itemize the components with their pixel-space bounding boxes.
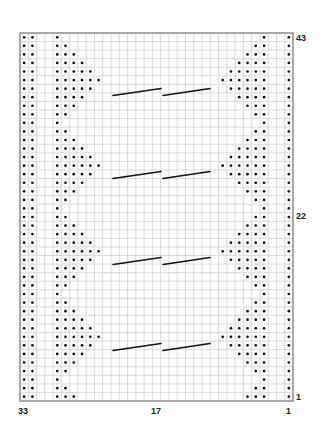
purl-dot	[64, 395, 67, 398]
purl-dot	[263, 233, 266, 236]
purl-dot	[254, 199, 257, 202]
purl-dot	[288, 79, 291, 82]
purl-dot	[72, 139, 75, 142]
purl-dot	[23, 258, 26, 261]
purl-dot	[230, 70, 233, 73]
purl-dot	[221, 164, 224, 167]
purl-dot	[56, 293, 59, 296]
purl-dot	[263, 353, 266, 356]
purl-dot	[230, 164, 233, 167]
purl-dot	[81, 327, 84, 330]
purl-dot	[254, 96, 257, 99]
purl-dot	[288, 387, 291, 390]
purl-dot	[56, 241, 59, 244]
purl-dot	[56, 190, 59, 193]
purl-dot	[23, 70, 26, 73]
purl-dot	[23, 276, 26, 279]
purl-dot	[230, 156, 233, 159]
purl-dot	[56, 284, 59, 287]
purl-dot	[288, 122, 291, 125]
purl-dot	[230, 87, 233, 90]
purl-dot	[23, 387, 26, 390]
purl-dot	[263, 250, 266, 253]
purl-dot	[31, 387, 34, 390]
purl-dot	[64, 301, 67, 304]
purl-dot	[56, 122, 59, 125]
purl-dot	[56, 267, 59, 270]
purl-dot	[56, 224, 59, 227]
purl-dot	[254, 164, 257, 167]
purl-dot	[89, 164, 92, 167]
purl-dot	[246, 250, 249, 253]
purl-dot	[263, 301, 266, 304]
col-label-33: 33	[18, 406, 28, 416]
purl-dot	[72, 164, 75, 167]
purl-dot	[288, 370, 291, 373]
purl-dot	[230, 173, 233, 176]
purl-dot	[23, 216, 26, 219]
purl-dot	[31, 293, 34, 296]
purl-dot	[56, 130, 59, 133]
cable-stroke	[163, 258, 210, 265]
purl-dot	[254, 395, 257, 398]
purl-dot	[64, 335, 67, 338]
purl-dot	[31, 284, 34, 287]
purl-dot	[230, 250, 233, 253]
purl-dot	[230, 327, 233, 330]
purl-dot	[64, 258, 67, 261]
purl-dot	[72, 327, 75, 330]
purl-dot	[263, 267, 266, 270]
purl-dot	[64, 87, 67, 90]
purl-dot	[31, 318, 34, 321]
purl-dot	[31, 395, 34, 398]
purl-dot	[64, 181, 67, 184]
purl-dot	[23, 130, 26, 133]
purl-dot	[230, 241, 233, 244]
purl-dot	[56, 207, 59, 210]
purl-dot	[31, 353, 34, 356]
purl-dot	[288, 130, 291, 133]
purl-dot	[23, 344, 26, 347]
purl-dot	[64, 216, 67, 219]
purl-dot	[64, 130, 67, 133]
purl-dot	[254, 335, 257, 338]
purl-dot	[246, 156, 249, 159]
purl-dot	[72, 147, 75, 150]
purl-dot	[263, 113, 266, 116]
cable-stroke	[113, 172, 161, 179]
purl-dot	[288, 241, 291, 244]
purl-dot	[288, 139, 291, 142]
purl-dot	[246, 233, 249, 236]
purl-dot	[81, 79, 84, 82]
purl-dot	[263, 53, 266, 56]
purl-dot	[263, 370, 266, 373]
purl-dot	[288, 293, 291, 296]
purl-dot	[56, 378, 59, 381]
purl-dot	[238, 335, 241, 338]
purl-dot	[97, 79, 100, 82]
purl-dot	[56, 318, 59, 321]
purl-dot	[31, 79, 34, 82]
purl-dot	[72, 318, 75, 321]
purl-dot	[254, 250, 257, 253]
purl-dot	[246, 353, 249, 356]
purl-dot	[246, 344, 249, 347]
purl-dot	[81, 267, 84, 270]
purl-dot	[31, 378, 34, 381]
purl-dot	[56, 70, 59, 73]
purl-dot	[288, 335, 291, 338]
purl-dot	[254, 87, 257, 90]
purl-dot	[81, 173, 84, 176]
purl-dot	[263, 344, 266, 347]
purl-dot	[23, 395, 26, 398]
purl-dot	[31, 104, 34, 107]
purl-dot	[254, 327, 257, 330]
purl-dot	[263, 104, 266, 107]
purl-dot	[230, 335, 233, 338]
purl-dot	[64, 318, 67, 321]
purl-dot	[246, 53, 249, 56]
purl-dot	[72, 87, 75, 90]
purl-dot	[254, 62, 257, 65]
purl-dot	[64, 53, 67, 56]
purl-dot	[238, 233, 241, 236]
